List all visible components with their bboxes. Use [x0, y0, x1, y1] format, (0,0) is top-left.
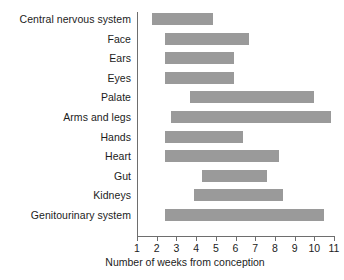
bar [165, 131, 244, 143]
category-label: Palate [0, 91, 131, 103]
category-label: Ears [0, 52, 131, 64]
bar [152, 13, 213, 25]
category-label: Heart [0, 150, 131, 162]
x-axis-tick [176, 236, 177, 241]
bar [165, 150, 279, 162]
x-axis-tick-label: 7 [244, 242, 266, 254]
category-label: Face [0, 33, 131, 45]
x-axis-tick [275, 236, 276, 241]
category-label: Kidneys [0, 189, 131, 201]
x-axis-tick [334, 236, 335, 241]
x-axis-tick-label: 5 [205, 242, 227, 254]
category-label: Genitourinary system [0, 209, 131, 221]
x-axis-tick [137, 236, 138, 241]
bar [194, 189, 283, 201]
plot-area [137, 12, 334, 236]
x-axis-tick-label: 3 [165, 242, 187, 254]
bar [165, 72, 234, 84]
x-axis-tick-label: 2 [146, 242, 168, 254]
x-axis-tick [295, 236, 296, 241]
category-label: Hands [0, 131, 131, 143]
category-axis-labels: Central nervous systemFaceEarsEyesPalate… [0, 12, 131, 236]
x-axis-tick [216, 236, 217, 241]
x-axis-tick-label: 11 [323, 242, 344, 254]
x-axis-tick-label: 4 [185, 242, 207, 254]
bar [190, 91, 314, 103]
x-axis-tick-label: 9 [284, 242, 306, 254]
category-label: Central nervous system [0, 13, 131, 25]
x-axis-tick [236, 236, 237, 241]
x-axis-tick-label: 1 [126, 242, 148, 254]
category-label: Eyes [0, 72, 131, 84]
x-axis-tick-label: 10 [303, 242, 325, 254]
bar [171, 111, 331, 123]
x-axis-tick [314, 236, 315, 241]
x-axis-tick [196, 236, 197, 241]
category-label: Arms and legs [0, 111, 131, 123]
x-axis-title: Number of weeks from conception [0, 256, 334, 269]
bar [202, 170, 267, 182]
bar [165, 33, 250, 45]
x-axis-tick-label: 8 [264, 242, 286, 254]
x-axis-tick [255, 236, 256, 241]
x-axis-tick-label: 6 [225, 242, 247, 254]
x-axis-tick [157, 236, 158, 241]
category-label: Gut [0, 170, 131, 182]
bar [165, 52, 234, 64]
y-axis-line [137, 12, 138, 236]
bar [165, 209, 325, 221]
